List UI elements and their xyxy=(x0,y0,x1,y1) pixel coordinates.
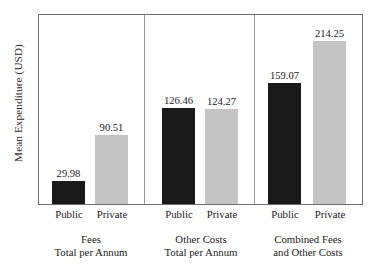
bar-chart: Mean Expenditure (USD) 29.98 90.51 126.4… xyxy=(0,0,376,273)
tick-label-combined-private: Private xyxy=(300,208,360,220)
group-separator-1 xyxy=(144,15,145,204)
bar-other-costs-public: 126.46 xyxy=(162,108,195,204)
group-caption-line-2: and Other Costs xyxy=(243,246,373,259)
bar-combined-private: 214.25 xyxy=(313,41,346,204)
bar-value-label: 214.25 xyxy=(315,28,344,39)
group-caption-combined: Combined Fees and Other Costs xyxy=(243,233,373,259)
bar-value-label: 90.51 xyxy=(100,122,124,133)
y-axis-title: Mean Expenditure (USD) xyxy=(0,0,36,205)
tick-label-fees-private: Private xyxy=(82,208,142,220)
plot-surface: 29.98 90.51 126.46 124.27 159.07 214.25 xyxy=(39,15,362,204)
bar-value-label: 124.27 xyxy=(207,96,236,107)
group-separator-2 xyxy=(254,15,255,204)
bar-value-label: 126.46 xyxy=(164,95,193,106)
bar-fees-public: 29.98 xyxy=(52,181,85,204)
bar-value-label: 159.07 xyxy=(270,70,299,81)
bar-value-label: 29.98 xyxy=(57,168,81,179)
bar-fees-private: 90.51 xyxy=(95,135,128,204)
bar-combined-public: 159.07 xyxy=(268,83,301,204)
y-axis-title-label: Mean Expenditure (USD) xyxy=(12,44,24,162)
bar-other-costs-private: 124.27 xyxy=(205,109,238,204)
tick-label-other-costs-private: Private xyxy=(192,208,252,220)
group-caption-line-1: Combined Fees xyxy=(243,233,373,246)
